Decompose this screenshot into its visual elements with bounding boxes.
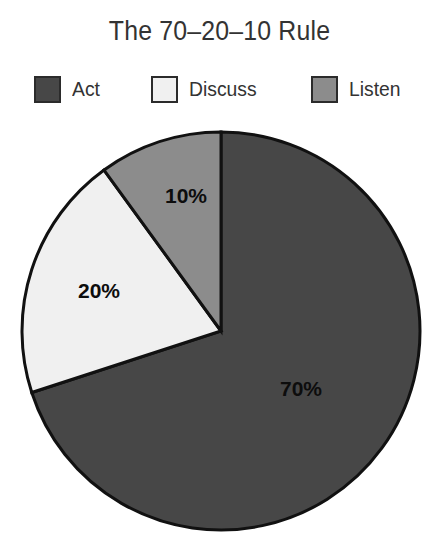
chart-legend: Act Discuss Listen: [0, 70, 439, 108]
legend-swatch-act: [34, 76, 61, 103]
legend-item-act[interactable]: Act: [34, 76, 102, 103]
pie-slice-discuss[interactable]: [22, 170, 221, 392]
legend-item-listen[interactable]: Listen: [311, 76, 405, 103]
pie-label-layer: 70%20%10%: [78, 184, 322, 400]
legend-label-listen: Listen: [349, 78, 401, 100]
pie-slice-label-discuss: 20%: [78, 279, 120, 302]
legend-label-act: Act: [72, 78, 100, 100]
legend-swatch-discuss: [151, 76, 178, 103]
legend-label-discuss: Discuss: [189, 78, 257, 100]
pie-slice-label-listen: 10%: [165, 184, 207, 207]
legend-item-discuss[interactable]: Discuss: [151, 76, 263, 103]
chart-title: The 70–20–10 Rule: [18, 15, 422, 47]
pie-slice-label-act: 70%: [280, 377, 322, 400]
pie-slice-act[interactable]: [32, 132, 420, 530]
pie-slice-listen[interactable]: [104, 132, 221, 331]
pie-chart-figure: The 70–20–10 Rule Act Discuss Listen 70%…: [0, 0, 439, 559]
legend-swatch-listen: [311, 76, 338, 103]
pie-slice-layer: [22, 132, 420, 530]
